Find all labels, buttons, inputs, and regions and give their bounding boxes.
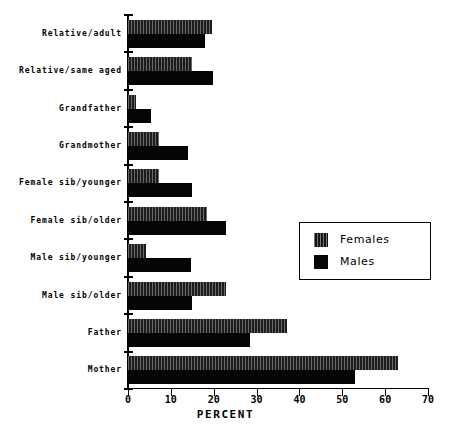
category-label: Mother — [2, 365, 122, 374]
category-label: Relative/same aged — [2, 66, 122, 75]
category-label: Grandfather — [2, 103, 122, 112]
bar-males — [128, 146, 188, 160]
y-axis-tick — [124, 238, 133, 240]
bar-females — [128, 132, 159, 146]
x-axis-tick-label: 50 — [336, 394, 348, 405]
category-label: Grandmother — [2, 140, 122, 149]
category-label: Female sib/younger — [2, 178, 122, 187]
x-axis-title: PERCENT — [0, 408, 451, 421]
bar-males — [128, 109, 151, 123]
bar-females — [128, 207, 207, 221]
x-axis-tick-label: 40 — [293, 394, 305, 405]
bar-females — [128, 319, 287, 333]
bar-males — [128, 333, 250, 347]
legend-label-females: Females — [340, 232, 390, 248]
bar-males — [128, 258, 191, 272]
category-label: Female sib/older — [2, 215, 122, 224]
y-axis-tick — [124, 276, 133, 278]
bar-females — [128, 169, 159, 183]
x-axis-tick-label: 20 — [208, 394, 220, 405]
y-axis-tick — [124, 14, 133, 16]
plot-area — [128, 14, 428, 388]
y-axis-tick — [124, 313, 133, 315]
y-axis-tick — [124, 126, 133, 128]
legend-label-males: Males — [340, 254, 375, 270]
y-axis-tick — [124, 164, 133, 166]
bar-females — [128, 95, 136, 109]
category-label: Father — [2, 327, 122, 336]
bar-males — [128, 71, 213, 85]
bar-males — [128, 221, 226, 235]
y-axis-tick — [124, 201, 133, 203]
bar-females — [128, 57, 192, 71]
x-axis-tick-label: 30 — [251, 394, 263, 405]
bar-males — [128, 296, 192, 310]
bar-females — [128, 282, 226, 296]
legend-swatch-males-icon — [314, 255, 328, 269]
x-axis-tick-label: 70 — [422, 394, 434, 405]
category-label: Male sib/younger — [2, 253, 122, 262]
bar-females — [128, 20, 212, 34]
y-axis-tick — [124, 89, 133, 91]
x-axis-line — [128, 388, 429, 389]
category-label: Relative/adult — [2, 28, 122, 37]
bar-males — [128, 183, 192, 197]
x-axis-tick-label: 0 — [125, 394, 131, 405]
y-axis-tick — [124, 51, 133, 53]
x-axis-tick-label: 10 — [165, 394, 177, 405]
bar-females — [128, 244, 146, 258]
bar-females — [128, 356, 398, 370]
y-axis-tick — [124, 351, 133, 353]
x-axis-tick-label: 60 — [379, 394, 391, 405]
legend-swatch-females-icon — [314, 233, 328, 247]
bar-chart: Relative/adultRelative/same agedGrandfat… — [0, 0, 451, 436]
category-label: Male sib/older — [2, 290, 122, 299]
legend: Females Males — [299, 222, 431, 280]
bar-males — [128, 370, 355, 384]
bar-males — [128, 34, 205, 48]
